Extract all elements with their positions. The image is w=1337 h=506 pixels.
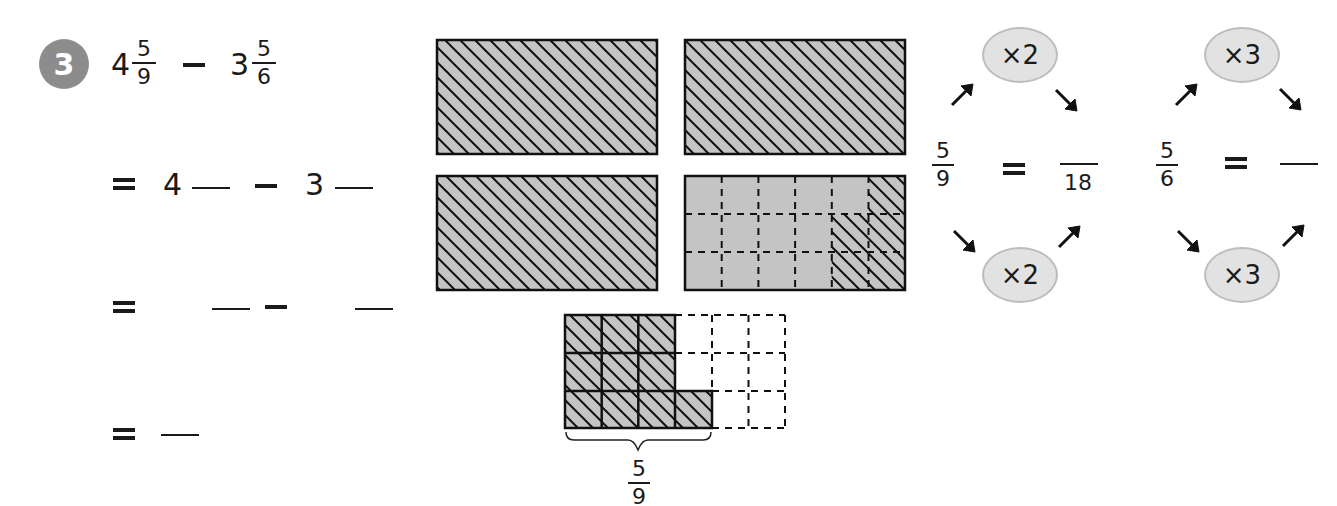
multiplier-bottom-1: ×2 [982, 247, 1058, 303]
whole-rect-3 [437, 176, 657, 290]
conversion-1-fraction: 5 9 [932, 140, 954, 190]
numerator: 5 [632, 458, 646, 480]
denominator: 9 [632, 486, 646, 506]
brace [566, 432, 711, 450]
brace-fraction: 5 9 [628, 458, 650, 506]
lower-grid [565, 315, 785, 428]
equals-sign [1003, 163, 1025, 175]
answer-blank[interactable] [1280, 163, 1318, 165]
partial-rect-4 [685, 176, 905, 290]
multiplier-top-2: ×3 [1204, 27, 1280, 83]
equals-sign [1225, 157, 1247, 169]
answer-blank-numerator[interactable] [1060, 163, 1098, 165]
fraction-area-diagram [0, 0, 1337, 506]
multiplier-top-1: ×2 [982, 27, 1058, 83]
multiplier-bottom-2: ×3 [1204, 247, 1280, 303]
conversion-1-result-den: 18 [1064, 172, 1092, 194]
whole-rect-2 [685, 40, 905, 154]
conversion-2-fraction: 5 6 [1156, 140, 1178, 190]
whole-rect-1 [437, 40, 657, 154]
